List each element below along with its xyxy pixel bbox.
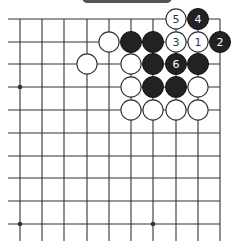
move-number: 1 — [195, 36, 202, 49]
move-number: 4 — [195, 13, 202, 26]
white-stone — [166, 100, 186, 120]
move-number: 3 — [173, 36, 180, 49]
star-point — [18, 85, 23, 90]
black-stone — [121, 32, 142, 53]
white-stone — [188, 100, 208, 120]
white-stone — [143, 100, 163, 120]
white-stone — [77, 54, 97, 74]
move-number: 2 — [217, 36, 224, 49]
white-stone — [121, 77, 141, 97]
move-number: 5 — [173, 13, 180, 26]
white-stone-move-5: 5 — [166, 9, 186, 29]
black-stone — [143, 77, 164, 98]
white-stone — [99, 32, 119, 52]
black-stone — [188, 54, 209, 75]
move-number: 6 — [173, 58, 180, 71]
white-stone — [188, 77, 208, 97]
black-stone — [143, 32, 164, 53]
black-stone — [166, 77, 187, 98]
white-stone-move-3: 3 — [166, 32, 186, 52]
black-stone — [143, 54, 164, 75]
white-stone — [121, 100, 141, 120]
black-stone-move-4: 4 — [188, 9, 209, 30]
star-point — [18, 222, 23, 227]
board-grid — [8, 19, 220, 241]
black-stone-move-6: 6 — [166, 54, 187, 75]
white-stone — [121, 54, 141, 74]
star-point — [151, 222, 156, 227]
black-stone-move-2: 2 — [210, 32, 231, 53]
white-stone-move-1: 1 — [188, 32, 208, 52]
go-board: 543126 — [0, 0, 236, 241]
